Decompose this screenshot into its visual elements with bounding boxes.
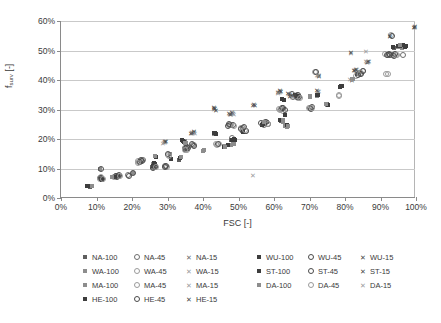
data-point bbox=[265, 120, 269, 124]
data-point bbox=[153, 162, 157, 166]
data-point bbox=[111, 175, 115, 179]
data-point bbox=[177, 158, 181, 162]
chart-legend: NA-100NA-45✕NA-15WU-100WU-45✕WU-15WA-100… bbox=[80, 250, 370, 306]
data-point bbox=[152, 164, 156, 168]
legend-item-ma-15[interactable]: ✕MA-15 bbox=[184, 281, 236, 290]
plot-area: 0%10%20%30%40%50%60% 0%10%20%30%40%50%60… bbox=[60, 21, 415, 198]
data-point: ✕ bbox=[226, 110, 233, 117]
data-point bbox=[293, 93, 297, 97]
data-point: ✕ bbox=[351, 66, 358, 73]
legend-item-st-45[interactable]: ST-45 bbox=[306, 267, 358, 276]
data-point bbox=[262, 119, 268, 125]
data-point bbox=[98, 175, 104, 181]
data-point bbox=[100, 176, 106, 182]
data-point bbox=[154, 155, 158, 159]
data-point bbox=[212, 132, 216, 136]
legend-item-na-100[interactable]: NA-100 bbox=[80, 253, 132, 262]
legend-item-wu-45[interactable]: WU-45 bbox=[306, 253, 358, 262]
legend-item-ma-45[interactable]: MA-45 bbox=[132, 281, 184, 290]
data-point bbox=[286, 124, 290, 128]
data-point: ✕ bbox=[354, 67, 361, 74]
legend-item-st-15[interactable]: ✕ST-15 bbox=[358, 267, 410, 276]
data-point bbox=[396, 44, 400, 48]
legend-swatch: ✕ bbox=[184, 253, 193, 262]
legend-swatch bbox=[254, 253, 263, 262]
data-point bbox=[243, 128, 249, 134]
data-point bbox=[297, 95, 303, 101]
data-point: ✕ bbox=[276, 89, 283, 96]
data-point bbox=[138, 157, 144, 163]
legend-item-da-45[interactable]: DA-45 bbox=[306, 281, 358, 290]
legend-item-na-45[interactable]: NA-45 bbox=[132, 253, 184, 262]
legend-item-wu-15[interactable]: ✕WU-15 bbox=[358, 253, 410, 262]
legend-item-he-100[interactable]: HE-100 bbox=[80, 295, 132, 304]
legend-item-wa-15[interactable]: ✕WA-15 bbox=[184, 267, 236, 276]
data-point bbox=[290, 94, 296, 100]
data-point bbox=[340, 84, 344, 88]
data-point bbox=[400, 46, 404, 50]
data-point bbox=[166, 153, 172, 159]
data-point bbox=[98, 174, 104, 180]
x-tick-label: 40% bbox=[194, 202, 211, 212]
data-point bbox=[190, 142, 196, 148]
legend-item-st-100[interactable]: ST-100 bbox=[254, 267, 306, 276]
gridline bbox=[61, 169, 415, 170]
data-point bbox=[85, 184, 89, 188]
data-point bbox=[312, 69, 318, 75]
data-point bbox=[117, 173, 123, 179]
legend-item-da-15[interactable]: ✕DA-15 bbox=[358, 281, 410, 290]
data-point bbox=[183, 141, 187, 145]
data-point bbox=[385, 52, 391, 58]
x-tick-mark bbox=[61, 197, 62, 201]
data-point bbox=[382, 51, 388, 57]
data-point bbox=[265, 121, 271, 127]
legend-label: WU-15 bbox=[370, 253, 393, 262]
data-point bbox=[226, 143, 230, 147]
data-point bbox=[385, 71, 391, 77]
legend-item-wu-100[interactable]: WU-100 bbox=[254, 253, 306, 262]
data-point bbox=[223, 145, 227, 149]
data-point bbox=[238, 126, 244, 132]
y-tick-label: 30% bbox=[38, 105, 55, 115]
data-point bbox=[178, 156, 182, 160]
legend-item-na-15[interactable]: ✕NA-15 bbox=[184, 253, 236, 262]
data-point bbox=[112, 175, 116, 179]
data-point bbox=[358, 70, 364, 76]
data-point bbox=[360, 68, 366, 74]
marker-cross-icon: ✕ bbox=[185, 254, 192, 261]
y-axis-title-base: f bbox=[4, 85, 14, 88]
data-point: ✕ bbox=[250, 171, 257, 178]
y-tick-mark bbox=[57, 21, 61, 22]
x-tick-mark bbox=[203, 197, 204, 201]
legend-swatch bbox=[306, 281, 315, 290]
data-point bbox=[295, 92, 301, 98]
marker-filled-square-icon bbox=[83, 255, 87, 259]
data-point bbox=[241, 130, 245, 134]
marker-open-circle-icon bbox=[134, 282, 140, 288]
data-point bbox=[393, 52, 399, 58]
data-point bbox=[389, 33, 395, 39]
legend-item-wa-45[interactable]: WA-45 bbox=[132, 267, 184, 276]
legend-label: MA-45 bbox=[144, 281, 166, 290]
data-point: ✕ bbox=[289, 93, 296, 100]
legend-item-wa-100[interactable]: WA-100 bbox=[80, 267, 132, 276]
data-point bbox=[112, 175, 116, 179]
x-tick-label: 60% bbox=[265, 202, 282, 212]
data-point bbox=[282, 98, 286, 102]
scatter-chart: fsurv [-] 0%10%20%30%40%50%60% 0%10%20%3… bbox=[0, 0, 441, 323]
x-tick-mark bbox=[310, 197, 311, 201]
data-point bbox=[231, 123, 237, 129]
legend-item-he-15[interactable]: ✕HE-15 bbox=[184, 295, 236, 304]
data-point bbox=[241, 130, 245, 134]
data-point bbox=[191, 143, 197, 149]
legend-item-he-45[interactable]: HE-45 bbox=[132, 295, 184, 304]
data-point bbox=[265, 121, 271, 127]
data-point: ✕ bbox=[365, 58, 372, 65]
data-point bbox=[97, 176, 103, 182]
legend-label: NA-100 bbox=[92, 253, 117, 262]
data-point bbox=[388, 32, 394, 38]
data-point: ✕ bbox=[251, 102, 258, 109]
data-point: ✕ bbox=[364, 57, 371, 64]
legend-item-da-100[interactable]: DA-100 bbox=[254, 281, 306, 290]
legend-item-ma-100[interactable]: MA-100 bbox=[80, 281, 132, 290]
